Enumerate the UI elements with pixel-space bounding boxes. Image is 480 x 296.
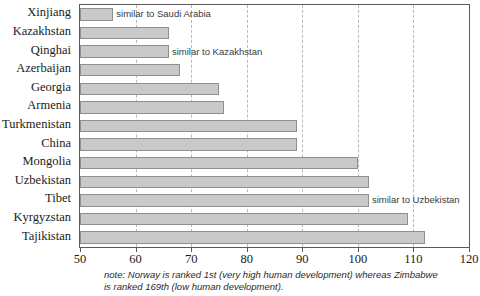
bar-series: similar to Saudi Arabiasimilar to Kazakh… xyxy=(80,5,469,247)
bar-row xyxy=(80,157,469,170)
bar xyxy=(80,213,408,226)
y-axis-label-tajikistan: Tajikistan xyxy=(22,230,71,243)
y-axis-category-labels: XinjiangKazakhstanQinghaiAzerbaijanGeorg… xyxy=(0,4,75,248)
bar xyxy=(80,101,224,114)
bar xyxy=(80,8,113,21)
bar-row xyxy=(80,27,469,40)
chart-container: XinjiangKazakhstanQinghaiAzerbaijanGeorg… xyxy=(0,0,480,296)
bar-annotation: similar to Kazakhstan xyxy=(172,47,262,57)
bar-row xyxy=(80,176,469,189)
x-axis-tick-label-70: 70 xyxy=(185,253,198,266)
y-axis-label-azerbaijan: Azerbaijan xyxy=(16,62,71,75)
bar-annotation: similar to Uzbekistan xyxy=(372,196,460,206)
y-axis-label-uzbekistan: Uzbekistan xyxy=(15,174,71,187)
bar xyxy=(80,138,297,151)
y-axis-label-mongolia: Mongolia xyxy=(22,155,71,168)
bar-row xyxy=(80,231,469,244)
bar-row xyxy=(80,120,469,133)
y-axis-label-kazakhstan: Kazakhstan xyxy=(13,25,71,38)
x-axis-tick-label-60: 60 xyxy=(129,253,142,266)
bar-row xyxy=(80,83,469,96)
bar-row xyxy=(80,213,469,226)
bar xyxy=(80,194,369,207)
bar-row: similar to Saudi Arabia xyxy=(80,8,469,21)
chart-footnote: note: Norway is ranked 1st (very high hu… xyxy=(104,269,444,292)
bar xyxy=(80,120,297,133)
bar xyxy=(80,176,369,189)
x-axis: 5060708090100110120 xyxy=(79,248,470,270)
bar xyxy=(80,27,169,40)
y-axis-label-kyrgyzstan: Kyrgyzstan xyxy=(14,211,71,224)
x-axis-tick-label-100: 100 xyxy=(348,253,367,266)
bar xyxy=(80,83,219,96)
bar xyxy=(80,157,358,170)
bar-row xyxy=(80,64,469,77)
bar-annotation: similar to Saudi Arabia xyxy=(116,10,211,20)
y-axis-label-china: China xyxy=(41,137,71,150)
x-axis-tick-label-80: 80 xyxy=(240,253,253,266)
bar xyxy=(80,45,169,58)
y-axis-label-tibet: Tibet xyxy=(45,192,71,205)
x-axis-tick-label-110: 110 xyxy=(404,253,422,266)
x-axis-tick-label-90: 90 xyxy=(296,253,309,266)
x-axis-tick-label-120: 120 xyxy=(460,253,479,266)
y-axis-label-armenia: Armenia xyxy=(27,99,71,112)
plot-area: similar to Saudi Arabiasimilar to Kazakh… xyxy=(79,4,470,248)
bar-row xyxy=(80,138,469,151)
y-axis-label-qinghai: Qinghai xyxy=(31,44,71,57)
y-axis-label-xinjiang: Xinjiang xyxy=(27,6,71,19)
y-axis-label-turkmenistan: Turkmenistan xyxy=(2,118,71,131)
x-axis-tick-label-50: 50 xyxy=(74,253,87,266)
bar xyxy=(80,231,425,244)
bar-row: similar to Uzbekistan xyxy=(80,194,469,207)
bar xyxy=(80,64,180,77)
bar-row: similar to Kazakhstan xyxy=(80,45,469,58)
bar-row xyxy=(80,101,469,114)
y-axis-label-georgia: Georgia xyxy=(31,81,71,94)
